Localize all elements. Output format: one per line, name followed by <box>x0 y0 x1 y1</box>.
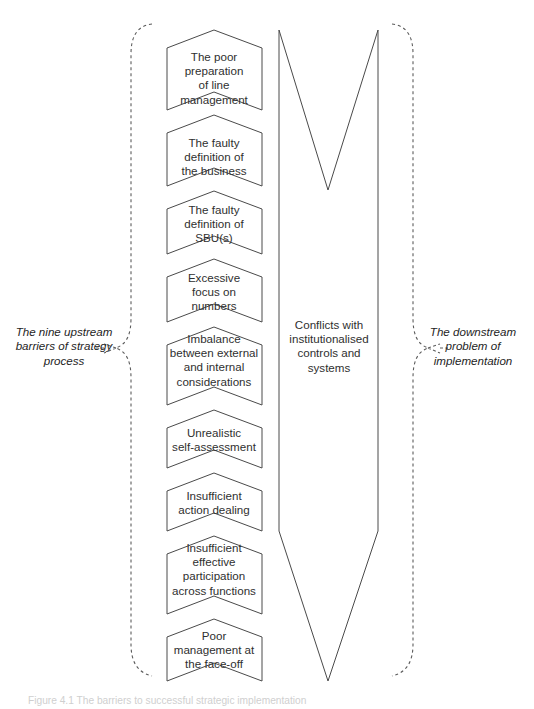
chevron-barrier-4 <box>167 259 262 322</box>
right-brace-label: The downstream problem of implementation <box>414 325 532 368</box>
left-brace-label: The nine upstream barriers of strategy p… <box>6 325 122 368</box>
chevron-barrier-2 <box>167 115 262 186</box>
figure-caption: Figure 4.1 The barriers to successful st… <box>28 694 498 707</box>
label-line: controls and <box>268 346 390 360</box>
chevron-barrier-5 <box>167 327 262 405</box>
chevron-barrier-6 <box>167 410 262 468</box>
downstream-arrow-label: Conflicts with institutionalised control… <box>268 318 390 375</box>
label-line: Conflicts with <box>268 318 390 332</box>
chevron-barrier-8 <box>167 536 262 614</box>
label-line: systems <box>268 361 390 375</box>
chevron-barrier-7 <box>167 473 262 531</box>
figure-diagram: The poor preparation of line management … <box>0 0 534 709</box>
label-line: institutionalised <box>268 332 390 346</box>
chevron-barrier-3 <box>167 191 262 254</box>
chevron-barrier-9 <box>167 619 262 681</box>
chevron-barrier-1 <box>167 30 262 110</box>
